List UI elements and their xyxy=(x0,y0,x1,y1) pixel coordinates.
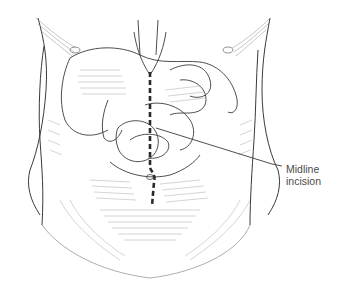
callout-leader xyxy=(156,128,282,166)
callout-label: Midline incision xyxy=(286,163,321,187)
nipple-marks xyxy=(70,47,233,53)
abdomen-illustration xyxy=(0,0,338,293)
callout-label-line1: Midline xyxy=(286,163,321,175)
midline-incision xyxy=(150,72,155,206)
callout-label-line2: incision xyxy=(286,175,321,187)
